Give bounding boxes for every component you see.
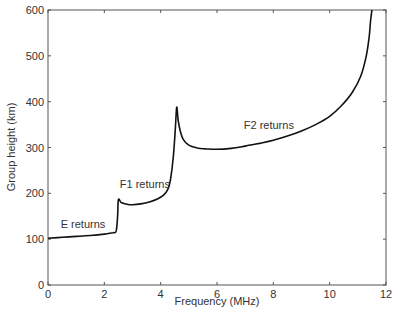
annotation-label: F1 returns [120,178,171,190]
data-series [48,10,372,238]
plot-frame [48,10,386,285]
x-tick-label: 10 [324,288,336,300]
y-tick-label: 0 [38,279,44,291]
y-tick-label: 200 [26,187,44,199]
y-tick-label: 400 [26,96,44,108]
x-tick-label: 2 [101,288,107,300]
x-tick-label: 8 [270,288,276,300]
y-tick-label: 100 [26,233,44,245]
y-tick-label: 300 [26,142,44,154]
y-axis-label: Group height (km) [5,103,17,192]
y-tick-label: 500 [26,50,44,62]
y-tick-label: 600 [26,4,44,16]
ionogram-chart: 0246810120100200300400500600 E returnsF1… [0,0,402,329]
plot-axes [48,10,386,285]
series-line [48,10,372,238]
annotations: E returnsF1 returnsF2 returns [61,119,295,230]
x-tick-label: 4 [158,288,164,300]
x-tick-label: 0 [45,288,51,300]
annotation-label: F2 returns [244,119,295,131]
x-axis-label: Frequency (MHz) [175,295,260,307]
annotation-label: E returns [61,218,106,230]
axis-ticks: 0246810120100200300400500600 [26,4,392,300]
x-tick-label: 12 [380,288,392,300]
